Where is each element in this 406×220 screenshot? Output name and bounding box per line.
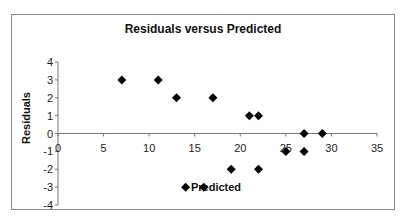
x-tick-label: 20 [234,142,246,154]
y-tick-label: 0 [47,128,53,140]
x-tick-label: 30 [325,142,337,154]
data-point-diamond [208,93,217,102]
y-tick-label: 4 [47,56,53,68]
x-axis-label: Predicted [191,181,241,193]
data-point-diamond [227,165,236,174]
data-point-diamond [245,111,254,120]
x-tick-label: 15 [189,142,201,154]
y-tick-label: 3 [47,74,53,86]
data-point-diamond [300,147,309,156]
data-point-diamond [254,165,263,174]
y-tick-label: -2 [43,163,53,175]
data-point-diamond [154,75,163,84]
data-point-diamond [181,183,190,192]
y-tick-label: 1 [47,110,53,122]
x-tick-label: 10 [143,142,155,154]
data-point-diamond [300,129,309,138]
chart-title: Residuals versus Predicted [125,22,282,36]
y-tick-label: 2 [47,92,53,104]
scatter-chart: Residuals versus Predicted 43210-1-2-3-4… [0,0,406,220]
x-tick-label: 35 [371,142,383,154]
x-axis: 05101520253035 [55,134,383,154]
x-tick-label: 0 [55,142,61,154]
y-axis: 43210-1-2-3-4 [43,56,58,211]
data-point-diamond [172,93,181,102]
x-tick-label: 5 [101,142,107,154]
y-tick-label: -1 [43,145,53,157]
data-point-diamond [117,75,126,84]
y-tick-label: -4 [43,199,53,211]
data-point-diamond [254,111,263,120]
y-axis-label: Residuals [20,92,32,144]
data-point-diamond [318,129,327,138]
y-tick-label: -3 [43,181,53,193]
